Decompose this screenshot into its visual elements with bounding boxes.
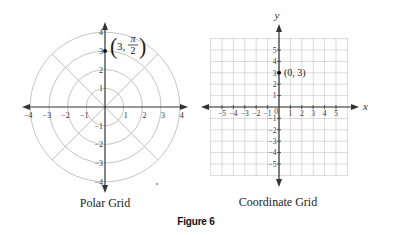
svg-text:): ) [139,33,146,59]
arrow-right-icon [180,104,188,110]
polar-grid: −4−3−2−112344321−1−2−3−4(3,π2) [22,22,188,193]
arrow-down-icon [276,179,282,187]
y-tick-label: −4 [269,148,277,157]
coordinate-grid-caption: Coordinate Grid [239,195,317,210]
y-tick-label: 1 [273,91,277,100]
svg-text:3,: 3, [117,40,126,52]
x-axis-label: x [362,100,368,112]
x-tick-label: 1 [289,109,293,118]
y-tick-label: 2 [273,80,277,89]
stray-mark [156,183,158,185]
polar-y-tick-label: −4 [94,178,103,187]
polar-grid-caption: Polar Grid [80,196,130,211]
arrow-up-icon [276,24,282,32]
polar-x-tick-label: 3 [161,111,165,120]
polar-x-tick-label: 1 [124,111,128,120]
x-tick-label: −4 [229,109,237,118]
y-tick-label: 3 [273,69,277,78]
polar-x-tick-label: −4 [24,111,33,120]
x-tick-label: −3 [241,109,249,118]
cartesian-point-label: (0, 3) [284,67,306,79]
polar-y-tick-label: −1 [94,122,103,131]
x-tick-label: 4 [323,109,327,118]
polar-y-tick-label: 4 [99,28,103,37]
coordinate-grid: xy−5−4−3−2−11234554321−1−2−3−4−50(0, 3) [201,9,368,187]
arrow-left-icon [201,104,209,110]
figure-label: Figure 6 [177,216,214,227]
y-tick-label: −3 [269,137,277,146]
arrow-left-icon [22,104,30,110]
figure-6: −4−3−2−112344321−1−2−3−4(3,π2) xy−5−4−3−… [0,0,393,235]
x-tick-label: 5 [334,109,338,118]
polar-y-tick-label: 2 [99,66,103,75]
y-axis-label: y [274,9,280,21]
polar-x-tick-label: 4 [180,111,184,120]
polar-x-tick-label: −2 [61,111,70,120]
x-tick-label: 3 [311,109,315,118]
x-tick-label: 2 [300,109,304,118]
cartesian-point [277,71,281,75]
y-tick-label: −5 [269,160,277,169]
polar-point [103,49,107,53]
polar-x-tick-label: −1 [80,111,89,120]
polar-point-label: (3,π2) [110,33,146,59]
origin-label: 0 [274,107,278,116]
y-tick-label: 4 [273,57,277,66]
polar-x-tick-label: −3 [43,111,52,120]
polar-x-tick-label: 2 [142,111,146,120]
polar-y-tick-label: −3 [94,159,103,168]
polar-y-tick-label: 3 [99,47,103,56]
polar-y-tick-label: 1 [99,84,103,93]
x-tick-label: −2 [252,109,260,118]
y-tick-label: −2 [269,126,277,135]
y-tick-label: 5 [273,46,277,55]
arrow-right-icon [351,104,359,110]
svg-text:2: 2 [131,45,136,56]
polar-y-tick-label: −2 [94,140,103,149]
x-tick-label: −5 [218,109,226,118]
